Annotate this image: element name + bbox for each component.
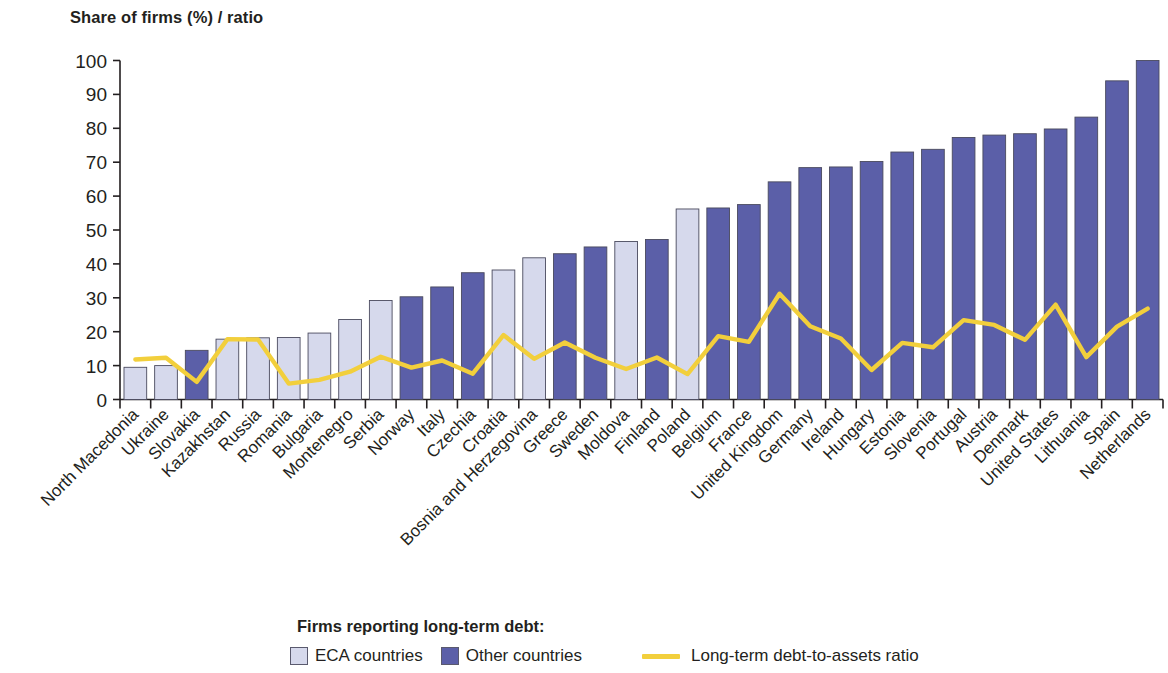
legend-label-ratio: Long-term debt-to-assets ratio bbox=[691, 646, 919, 666]
bar bbox=[1044, 129, 1067, 400]
bar bbox=[768, 182, 791, 400]
legend-swatch-other-icon bbox=[441, 647, 459, 665]
legend-item-other: Other countries bbox=[441, 646, 582, 666]
legend-item-ratio: Long-term debt-to-assets ratio bbox=[642, 646, 919, 666]
bar bbox=[983, 135, 1006, 399]
x-axis-tick-label: North Macedonia bbox=[37, 405, 142, 510]
bar bbox=[799, 168, 822, 400]
y-axis-tick-label: 90 bbox=[86, 84, 107, 105]
bar bbox=[891, 152, 914, 399]
y-axis-tick-label: 20 bbox=[86, 322, 107, 343]
y-axis-tick-label: 30 bbox=[86, 288, 107, 309]
bar bbox=[400, 297, 423, 400]
y-axis-tick-label: 40 bbox=[86, 254, 107, 275]
y-axis: 0102030405060708090100 bbox=[75, 51, 120, 411]
chart-legend: ECA countries Other countries Long-term … bbox=[290, 646, 919, 666]
bar bbox=[124, 367, 147, 399]
bar bbox=[461, 273, 484, 400]
y-axis-tick-label: 60 bbox=[86, 186, 107, 207]
y-axis-tick-label: 80 bbox=[86, 118, 107, 139]
legend-swatch-eca-icon bbox=[290, 647, 308, 665]
chart-root: Share of firms (%) / ratio 0102030405060… bbox=[0, 0, 1168, 673]
x-axis bbox=[120, 400, 1163, 409]
bar bbox=[738, 205, 761, 400]
y-axis-tick-label: 70 bbox=[86, 152, 107, 173]
bar bbox=[1014, 134, 1037, 400]
bar bbox=[523, 258, 546, 400]
bar bbox=[247, 338, 270, 400]
bar bbox=[369, 301, 392, 400]
bar bbox=[553, 254, 576, 400]
legend-label-other: Other countries bbox=[466, 646, 582, 666]
legend-item-eca: ECA countries bbox=[290, 646, 423, 666]
bar bbox=[645, 239, 668, 399]
legend-label-eca: ECA countries bbox=[315, 646, 423, 666]
bar bbox=[584, 247, 607, 400]
bar-series bbox=[124, 61, 1159, 400]
bar bbox=[952, 137, 975, 399]
bar bbox=[1106, 81, 1129, 400]
bar bbox=[339, 320, 362, 400]
bar bbox=[615, 242, 638, 400]
legend-line-icon bbox=[642, 654, 680, 659]
legend-title: Firms reporting long-term debt: bbox=[297, 617, 545, 636]
bar bbox=[707, 208, 730, 400]
bar bbox=[308, 333, 331, 399]
y-axis-tick-label: 50 bbox=[86, 220, 107, 241]
y-axis-tick-label: 10 bbox=[86, 356, 107, 377]
bar bbox=[431, 287, 454, 400]
bar bbox=[155, 366, 178, 400]
y-axis-tick-label: 0 bbox=[96, 390, 107, 411]
x-axis-labels: North MacedoniaUkraineSlovakiaKazakhstan… bbox=[37, 405, 1154, 550]
chart-svg: 0102030405060708090100North MacedoniaUkr… bbox=[0, 0, 1168, 673]
bar bbox=[922, 149, 945, 399]
plot-area: 0102030405060708090100North MacedoniaUkr… bbox=[0, 0, 1168, 673]
bar bbox=[1136, 61, 1159, 400]
y-axis-tick-label: 100 bbox=[75, 51, 107, 72]
bar bbox=[830, 167, 853, 400]
